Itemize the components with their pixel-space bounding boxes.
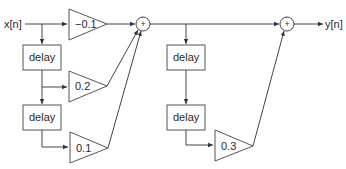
delay-1-to-gain-b-wire (42, 70, 67, 87)
gain-d-label: 0.3 (221, 140, 236, 152)
sum-1-plus: + (141, 19, 146, 29)
delay-3-label: delay (173, 51, 200, 63)
input-label: x[n] (4, 18, 22, 30)
delay-1-label: delay (29, 51, 56, 63)
sum-2-plus: + (285, 19, 290, 29)
delay-2-label: delay (29, 111, 56, 123)
gain-c-label: 0.1 (76, 142, 91, 154)
delay-4-label: delay (173, 111, 200, 123)
gain-b-label: 0.2 (75, 80, 90, 92)
output-label: y[n] (325, 18, 343, 30)
gain-d-out-wire (253, 31, 284, 146)
delay-4-to-gain-d-wire (186, 130, 213, 145)
delay-2-to-gain-c-wire (42, 130, 68, 147)
gain-c-out-wire (108, 31, 141, 148)
fir-filter-diagram: x[n] −0.1 delay 0.2 delay 0.1 + delay de… (0, 0, 346, 169)
gain-a-label: −0.1 (75, 18, 97, 30)
